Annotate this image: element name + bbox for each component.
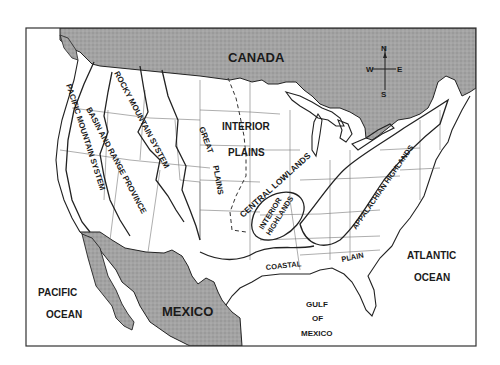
label-coastal: COASTAL	[265, 259, 302, 272]
label-atlantic-2: OCEAN	[414, 272, 450, 283]
label-gulf-1: GULF	[306, 300, 328, 309]
label-rocky-mountain: ROCKY MOUNTAIN SYSTEM	[112, 70, 171, 170]
label-pacific-1: PACIFIC	[38, 287, 77, 298]
label-gulf-3: MEXICO	[301, 329, 333, 338]
physiographic-map: CANADA MEXICO PACIFIC OCEAN ATLANTIC OCE…	[0, 0, 500, 365]
label-interior-plains-1: INTERIOR	[222, 121, 271, 132]
compass-s: S	[381, 90, 387, 99]
label-canada: CANADA	[228, 50, 285, 65]
label-interior-plains-2: PLAINS	[228, 147, 265, 158]
label-mexico: MEXICO	[162, 304, 213, 319]
label-atlantic-1: ATLANTIC	[407, 250, 456, 261]
label-gulf-2: OF	[312, 314, 323, 323]
compass-n: N	[381, 44, 387, 53]
lake-huron	[338, 120, 352, 142]
lake-michigan	[312, 114, 322, 156]
compass-w: W	[366, 65, 374, 74]
compass-e: E	[397, 65, 403, 74]
label-pacific-2: OCEAN	[46, 309, 82, 320]
